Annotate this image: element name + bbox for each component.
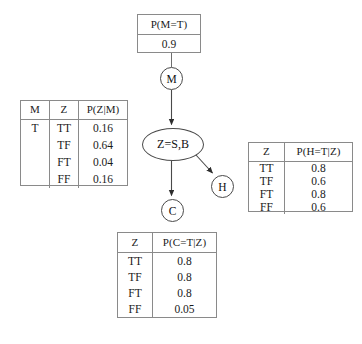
cell-m	[21, 154, 50, 171]
cpt-prior-m-header: P(M=T)	[138, 15, 200, 35]
node-z: Z=S,B	[142, 128, 204, 161]
table-row: FT 0.8	[118, 285, 216, 301]
edge-z-to-h	[196, 155, 213, 173]
cpt-table-c-given-z: Z P(C=T|Z) TT 0.8 TF 0.8 FT 0.8 FF	[117, 232, 217, 318]
bayesian-network-diagram: P(M=T) 0.9 M Z P(Z|M) T	[0, 0, 362, 344]
cell-z: FT	[118, 285, 153, 301]
table-row: FF 0.16	[21, 171, 127, 188]
cpt-table-z-given-m: M Z P(Z|M) T TT 0.16 TF 0.64 F	[20, 100, 128, 186]
cpt-h-given-z-header-p: P(H=T|Z)	[285, 143, 353, 162]
cell-z: TT	[50, 120, 79, 138]
cpt-prior-m-value: 0.9	[138, 35, 200, 55]
cell-p: 0.8	[153, 285, 217, 301]
table-row: 0.9	[138, 35, 200, 55]
cell-z: FF	[50, 171, 79, 188]
cpt-z-given-m-header-p: P(Z|M)	[79, 101, 128, 120]
cpt-h-given-z-header-z: Z	[249, 143, 285, 162]
table-row: TT 0.8	[118, 253, 216, 270]
cell-z: FT	[50, 154, 79, 171]
node-h: H	[211, 175, 234, 198]
cpt-table-prior-m: P(M=T) 0.9	[137, 14, 201, 53]
node-m: M	[160, 67, 183, 90]
table-row: TF 0.64	[21, 137, 127, 154]
cell-p: 0.64	[79, 137, 128, 154]
cpt-z-given-m-header-m: M	[21, 101, 50, 120]
cell-p: 0.04	[79, 154, 128, 171]
table-row: TF 0.8	[118, 269, 216, 285]
cell-z: TF	[118, 269, 153, 285]
node-c-label: C	[169, 205, 177, 217]
cpt-c-given-z-header-p: P(C=T|Z)	[153, 233, 217, 253]
cell-p: 0.6	[285, 201, 353, 214]
cell-p: 0.05	[153, 301, 217, 317]
cell-z: FF	[118, 301, 153, 317]
cpt-table-h-given-z: Z P(H=T|Z) TT 0.8 TF 0.6 FT 0.8 FF	[248, 142, 353, 212]
table-row: FT 0.04	[21, 154, 127, 171]
cpt-c-given-z-header-z: Z	[118, 233, 153, 253]
cell-z: FT	[249, 188, 285, 201]
cell-m	[21, 171, 50, 188]
table-row: FF 0.05	[118, 301, 216, 317]
table-row: TF 0.6	[249, 175, 352, 188]
connector-prior-table-to-m-node	[171, 53, 172, 67]
cell-p: 0.8	[153, 269, 217, 285]
cell-z: TT	[249, 162, 285, 176]
node-c: C	[161, 199, 184, 222]
node-m-label: M	[166, 73, 176, 85]
cell-p: 0.8	[153, 253, 217, 270]
node-z-label: Z=S,B	[157, 137, 189, 152]
cell-p: 0.8	[285, 162, 353, 176]
cell-m: T	[21, 120, 50, 138]
table-row: FF 0.6	[249, 201, 352, 214]
cell-z: TT	[118, 253, 153, 270]
cell-z: TF	[50, 137, 79, 154]
cell-z: TF	[249, 175, 285, 188]
cell-p: 0.16	[79, 171, 128, 188]
cell-p: 0.16	[79, 120, 128, 138]
cell-p: 0.8	[285, 188, 353, 201]
table-row: FT 0.8	[249, 188, 352, 201]
cpt-z-given-m-header-z: Z	[50, 101, 79, 120]
cell-p: 0.6	[285, 175, 353, 188]
cell-z: FF	[249, 201, 285, 214]
table-row: T TT 0.16	[21, 120, 127, 138]
node-h-label: H	[218, 181, 226, 193]
cell-m	[21, 137, 50, 154]
table-row: TT 0.8	[249, 162, 352, 176]
